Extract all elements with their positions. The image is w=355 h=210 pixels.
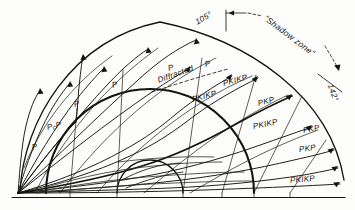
seismic-ray-diagram: 105° "Shadow zone" 142° Diffracted PPcPP… [0,0,355,210]
angle-105-marker [226,10,246,31]
